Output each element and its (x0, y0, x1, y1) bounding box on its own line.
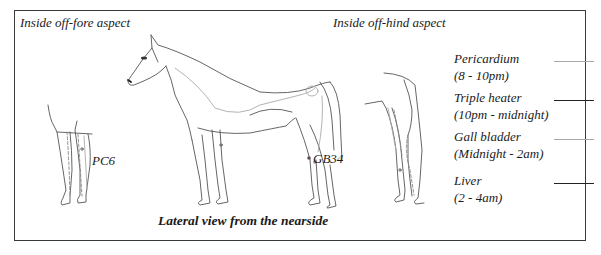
legend-time: (2 - 4am) (454, 189, 502, 206)
pc6-label: PC6 (92, 153, 115, 168)
legend-name: Gall bladder (454, 128, 544, 145)
gb34-point-marker (307, 156, 311, 160)
fore-leg-drawing (48, 105, 92, 205)
legend-time: (10pm - midnight) (454, 106, 549, 123)
hind-leg-drawing (365, 73, 424, 204)
legend-item-liver: Liver (2 - 4am) (454, 172, 502, 206)
legend-time: (8 - 10pm) (454, 67, 519, 84)
lateral-horse-drawing (128, 35, 342, 208)
legend-name: Liver (454, 172, 502, 189)
legend-line-light (554, 61, 594, 62)
legend-line-dark (554, 183, 594, 184)
legend-name: Pericardium (454, 50, 519, 67)
legend-item-triple-heater: Triple heater (10pm - midnight) (454, 89, 549, 123)
legend-item-gall-bladder: Gall bladder (Midnight - 2am) (454, 128, 544, 162)
legend-line-dark (554, 100, 594, 101)
legend-time: (Midnight - 2am) (454, 145, 544, 162)
legend-line-light (554, 139, 594, 140)
legend-item-pericardium: Pericardium (8 - 10pm) (454, 50, 519, 84)
legend-name: Triple heater (454, 89, 549, 106)
gb34-label: GB34 (313, 151, 343, 166)
